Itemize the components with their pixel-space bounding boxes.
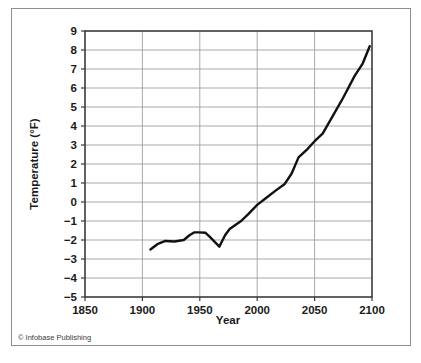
x-tick-label: 2050: [302, 304, 328, 316]
horizontal-gridlines: [85, 50, 372, 278]
y-tick-label: 8: [71, 44, 78, 56]
y-tick-label: 1: [71, 177, 78, 189]
y-axis-tick-labels: −5−4−3−2−10123456789: [64, 25, 78, 303]
y-tick-label: 6: [71, 82, 77, 94]
y-tick-label: 3: [71, 139, 77, 151]
y-tick-label: −4: [64, 272, 78, 284]
y-tick-label: 7: [71, 63, 77, 75]
copyright-credit: © Infobase Publishing: [18, 333, 91, 342]
x-axis-title: Year: [216, 314, 241, 326]
temperature-data-line: [150, 46, 369, 249]
x-tick-label: 1950: [187, 304, 213, 316]
y-axis-title: Temperature (°F): [28, 118, 40, 209]
line-chart: −5−4−3−2−10123456789 1850190019502000205…: [0, 0, 421, 363]
y-tick-label: 2: [71, 158, 77, 170]
x-tick-label: 1900: [130, 304, 156, 316]
y-tick-label: 4: [71, 120, 78, 132]
y-tick-label: −1: [64, 215, 78, 227]
x-tick-label: 2000: [244, 304, 270, 316]
x-tick-label: 2100: [359, 304, 385, 316]
y-tick-label: −2: [64, 234, 77, 246]
chart-figure: −5−4−3−2−10123456789 1850190019502000205…: [0, 0, 421, 363]
y-tick-label: 9: [71, 25, 77, 37]
y-tick-label: −5: [64, 291, 78, 303]
y-tick-label: 5: [71, 101, 78, 113]
x-tick-label: 1850: [72, 304, 98, 316]
y-tick-label: −3: [64, 253, 77, 265]
y-tick-label: 0: [71, 196, 77, 208]
